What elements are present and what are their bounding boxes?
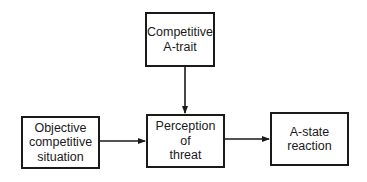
node-label: Competitive A-trait (147, 25, 213, 54)
node-label: Perception of threat (156, 119, 216, 163)
node-a-state-reaction: A-state reaction (270, 112, 349, 166)
node-competitive-a-trait: Competitive A-trait (145, 12, 215, 67)
diagram-canvas: Competitive A-trait Objective competitiv… (0, 0, 367, 182)
node-objective-competitive-situation: Objective competitive situation (21, 116, 100, 169)
node-label: Objective competitive situation (29, 121, 92, 165)
node-label: A-state reaction (287, 125, 331, 154)
node-perception-of-threat: Perception of threat (146, 114, 225, 168)
